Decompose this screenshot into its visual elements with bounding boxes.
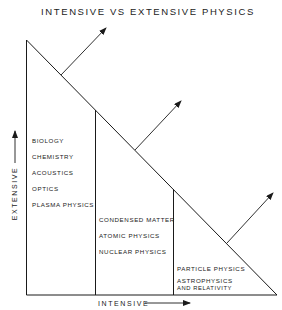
label-condensed-matter: CONDENSED MATTER	[99, 216, 175, 223]
label-particle-physics: PARTICLE PHYSICS	[177, 265, 245, 272]
region-dividers	[96, 110, 174, 295]
arrow-1	[61, 28, 106, 75]
label-plasma-physics: PLASMA PHYSICS	[32, 201, 94, 208]
label-astrophysics: ASTROPHYSICS	[177, 277, 233, 284]
frontier-arrows	[61, 28, 273, 243]
label-biology: BIOLOGY	[32, 137, 64, 144]
label-nuclear-physics: NUCLEAR PHYSICS	[99, 248, 166, 255]
label-chemistry: CHEMISTRY	[32, 153, 74, 160]
arrow-3	[227, 193, 273, 243]
triangle-outline	[27, 40, 278, 295]
x-axis-label: INTENSIVE	[98, 300, 149, 307]
label-and-relativity: AND RELATIVITY	[177, 285, 232, 291]
label-acoustics: ACOUSTICS	[32, 169, 74, 176]
arrow-2	[135, 101, 181, 150]
label-atomic-physics: ATOMIC PHYSICS	[99, 232, 160, 239]
y-axis-label: EXTENSIVE	[11, 164, 18, 224]
label-optics: OPTICS	[32, 185, 59, 192]
